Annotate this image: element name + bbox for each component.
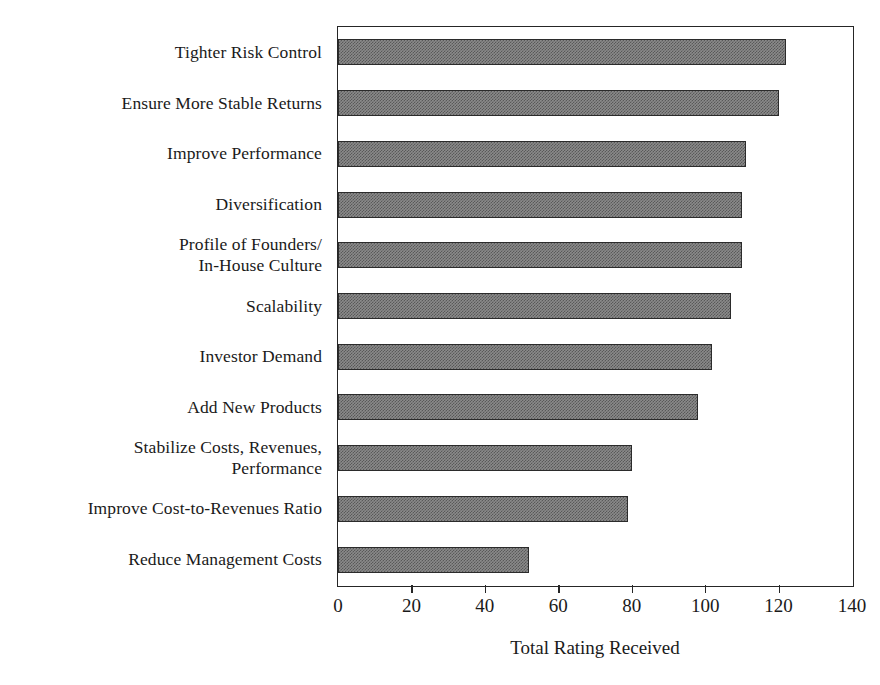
horizontal-bar-chart: Tighter Risk ControlEnsure More Stable R… — [0, 0, 880, 685]
x-axis-tick-label: 80 — [622, 594, 641, 618]
category-label: Tighter Risk Control — [0, 42, 330, 63]
bar — [338, 445, 632, 471]
bar-fill — [338, 39, 786, 65]
bar-fill — [338, 141, 746, 167]
bar-fill — [338, 192, 742, 218]
bar-fill — [338, 90, 779, 116]
x-axis-tick-label: 120 — [764, 594, 793, 618]
bar — [338, 90, 779, 116]
bar-fill — [338, 344, 712, 370]
bars-container — [338, 27, 852, 585]
x-axis-tick — [411, 585, 412, 593]
category-label: Add New Products — [0, 397, 330, 418]
bar — [338, 344, 712, 370]
bar-fill — [338, 496, 628, 522]
bar — [338, 192, 742, 218]
x-axis-tick-labels: 020406080100120140 — [338, 594, 852, 622]
bar-fill — [338, 242, 742, 268]
bar — [338, 141, 746, 167]
bar — [338, 39, 786, 65]
bar — [338, 547, 529, 573]
category-label: Reduce Management Costs — [0, 549, 330, 570]
x-axis-title: Total Rating Received — [338, 636, 852, 660]
category-label: Improve Cost-to-Revenues Ratio — [0, 498, 330, 519]
x-axis-tick-label: 60 — [549, 594, 568, 618]
bar — [338, 496, 628, 522]
category-axis-labels: Tighter Risk ControlEnsure More Stable R… — [0, 27, 330, 585]
category-label: Ensure More Stable Returns — [0, 93, 330, 114]
x-axis-tick — [485, 585, 486, 593]
bar-fill — [338, 293, 731, 319]
x-axis-tick-label: 140 — [838, 594, 867, 618]
x-axis-tick — [779, 585, 780, 593]
bar-fill — [338, 547, 529, 573]
category-label: Improve Performance — [0, 143, 330, 164]
x-axis-tick-label: 20 — [402, 594, 421, 618]
category-label: Diversification — [0, 194, 330, 215]
x-axis-tick — [558, 585, 559, 593]
category-label: Profile of Founders/ In-House Culture — [0, 234, 330, 276]
category-label: Scalability — [0, 296, 330, 317]
x-axis-tick-label: 100 — [691, 594, 720, 618]
bar — [338, 293, 731, 319]
bar-fill — [338, 445, 632, 471]
bar — [338, 242, 742, 268]
bar-fill — [338, 394, 698, 420]
category-label: Investor Demand — [0, 346, 330, 367]
x-axis-tick-label: 0 — [333, 594, 343, 618]
x-axis-tick — [705, 585, 706, 593]
x-axis-tick-label: 40 — [475, 594, 494, 618]
category-label: Stabilize Costs, Revenues, Performance — [0, 437, 330, 479]
bar — [338, 394, 698, 420]
x-axis-tick — [632, 585, 633, 593]
